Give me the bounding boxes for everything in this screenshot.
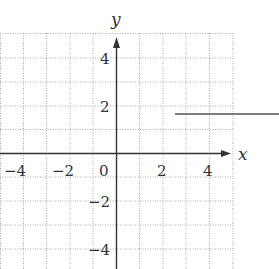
x-tick-label: 0: [99, 162, 109, 180]
y-axis-label: y: [110, 9, 121, 29]
y-tick-label: −4: [88, 241, 110, 259]
x-tick-label: 4: [203, 162, 213, 180]
x-tick-label: −4: [4, 162, 26, 180]
x-tick-label: 2: [157, 162, 167, 180]
x-axis-arrow-icon: [221, 150, 231, 157]
coordinate-plane: y x −4 −2 0 2 4 4 2 −2 −4: [0, 0, 279, 269]
y-axis-arrow-icon: [113, 37, 120, 48]
y-tick-label: 2: [100, 98, 110, 116]
x-tick-label: −2: [52, 162, 74, 180]
x-axis: [0, 150, 231, 157]
x-axis-label: x: [238, 144, 248, 164]
y-tick-label: −2: [88, 193, 110, 211]
y-tick-label: 4: [100, 50, 110, 68]
